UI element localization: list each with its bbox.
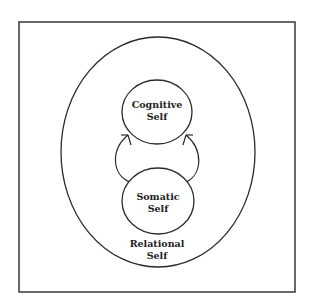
relational-label-line2: Self bbox=[147, 250, 169, 261]
left-feedback-arc bbox=[115, 135, 130, 182]
diagram-canvas: Cognitive Self Somatic Self Relational S… bbox=[0, 0, 311, 306]
cognitive-label-line2: Self bbox=[147, 111, 169, 122]
relational-label-line1: Relational bbox=[130, 238, 185, 249]
cognitive-label-line1: Cognitive bbox=[132, 99, 183, 110]
right-feedback-arc bbox=[186, 135, 199, 182]
somatic-label-line2: Self bbox=[148, 203, 170, 214]
somatic-label-line1: Somatic bbox=[136, 191, 179, 202]
